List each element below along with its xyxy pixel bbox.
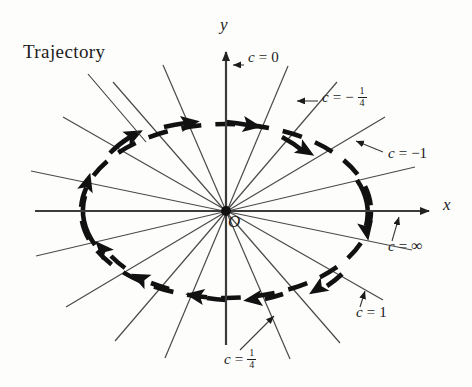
y-axis-label: y [220, 16, 228, 33]
origin-label: O [228, 213, 240, 230]
equals-sign: = [332, 90, 342, 105]
infinity-symbol: ∞ [411, 238, 422, 254]
minus-sign: − [345, 90, 353, 105]
fraction-one-quarter: 1 4 [247, 348, 256, 370]
c-variable: c [388, 146, 395, 161]
level-label-c-neg-one: c = −1 [388, 146, 427, 161]
fraction-denominator: 4 [358, 97, 367, 109]
x-axis-label: x [443, 196, 451, 213]
level-label-c-zero: c = 0 [248, 50, 279, 65]
flow-arrow [305, 277, 330, 301]
leader-trajectory [88, 74, 146, 142]
c-variable: c [248, 50, 255, 65]
leader-c-quarter [240, 316, 274, 350]
phase-portrait-figure: Trajectory y x O c = 0 c = − 1 4 c = −1 [0, 0, 472, 387]
flow-arrow [242, 290, 263, 308]
flow-stroke [282, 137, 303, 151]
c-value: 0 [271, 50, 279, 65]
c-variable: c [388, 239, 395, 254]
equals-sign: = [258, 50, 268, 65]
equals-sign: = [366, 305, 376, 320]
flow-stroke [327, 274, 342, 286]
level-label-c-quarter: c = 1 4 [224, 348, 256, 370]
flow-stroke [207, 298, 226, 300]
flow-stroke [111, 256, 125, 268]
level-label-c-neg-quarter: c = − 1 4 [322, 86, 367, 108]
trajectory-label: Trajectory [23, 42, 105, 61]
flow-stroke [83, 196, 95, 245]
fraction-numerator: 1 [247, 348, 256, 359]
c-variable: c [322, 90, 329, 105]
c-variable: c [224, 352, 231, 367]
fraction-numerator: 1 [358, 86, 367, 97]
level-label-c-one: c = 1 [356, 305, 387, 320]
c-variable: c [356, 305, 363, 320]
equals-sign: = [234, 352, 244, 367]
equals-sign: = [398, 239, 408, 254]
flow-stroke [226, 122, 248, 125]
c-value: 1 [379, 305, 387, 320]
equals-sign: = [398, 146, 408, 161]
c-value: −1 [411, 146, 427, 161]
fraction-denominator: 4 [247, 359, 256, 371]
level-label-c-infinity: c = ∞ [388, 238, 423, 254]
leader-c-neg-one [356, 141, 383, 152]
fraction-one-quarter: 1 4 [358, 86, 367, 108]
